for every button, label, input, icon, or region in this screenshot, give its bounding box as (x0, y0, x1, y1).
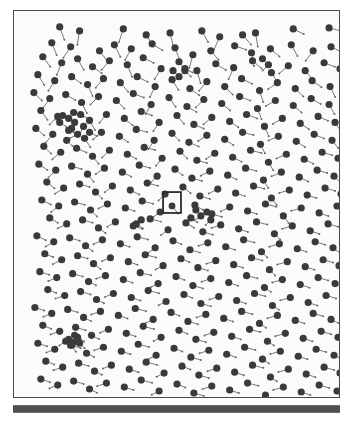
velocity-vector-tip (257, 385, 259, 387)
velocity-vector-tip (52, 263, 54, 265)
simulation-box (13, 10, 340, 398)
velocity-vector-tip (228, 78, 230, 80)
velocity-vector-tip (180, 243, 182, 245)
particle (221, 136, 228, 143)
velocity-vector-tip (76, 44, 78, 46)
particle (189, 51, 196, 58)
velocity-vector-tip (269, 353, 271, 355)
particle (96, 47, 103, 54)
velocity-vector-tip (278, 56, 280, 58)
velocity-vector-tip (272, 169, 274, 171)
particle (187, 354, 194, 361)
particle (125, 258, 132, 265)
particle (249, 57, 256, 64)
velocity-vector-tip (205, 224, 207, 226)
velocity-vector-tip (334, 66, 336, 68)
velocity-vector-tip (244, 195, 246, 197)
velocity-vector-tip (218, 59, 220, 61)
velocity-vector-tip (86, 112, 88, 114)
velocity-vector-tip (46, 169, 48, 171)
velocity-vector-tip (188, 67, 190, 69)
particle (320, 256, 327, 263)
particle (57, 149, 64, 156)
particle (325, 101, 332, 108)
velocity-vector-tip (271, 175, 273, 177)
particle (278, 169, 285, 176)
particle (89, 153, 96, 160)
particle (77, 288, 84, 295)
velocity-vector-tip (89, 104, 91, 106)
velocity-vector-tip (177, 89, 179, 91)
particle (190, 389, 197, 396)
velocity-vector-tip (71, 145, 73, 147)
particle (101, 165, 108, 172)
particle (113, 97, 120, 104)
velocity-vector-tip (152, 130, 154, 132)
velocity-vector-tip (134, 210, 136, 212)
velocity-vector-tip (51, 158, 53, 160)
particle (141, 144, 148, 151)
particle (112, 218, 119, 225)
particle (71, 198, 78, 205)
velocity-vector-tip (279, 299, 281, 301)
particle (316, 209, 323, 216)
velocity-vector-tip (278, 72, 280, 74)
particle (79, 216, 86, 223)
particle (63, 220, 70, 227)
particle (158, 65, 165, 72)
particle (173, 380, 180, 387)
velocity-vector-tip (264, 152, 266, 154)
particle (149, 40, 156, 47)
particle (300, 335, 307, 342)
particle (76, 340, 83, 347)
velocity-vector-tip (127, 141, 129, 143)
particle (288, 41, 295, 48)
velocity-vector-tip (331, 154, 333, 156)
velocity-vector-tip (130, 353, 132, 355)
particle (150, 316, 157, 323)
particle (185, 139, 192, 146)
particle (250, 183, 257, 190)
particle (249, 362, 256, 369)
velocity-vector-tip (327, 120, 329, 122)
particle (123, 330, 130, 337)
velocity-vector-tip (261, 67, 263, 69)
velocity-vector-tip (209, 299, 211, 301)
velocity-vector-tip (243, 374, 245, 376)
velocity-vector-tip (99, 122, 101, 124)
velocity-vector-tip (196, 221, 198, 223)
particle (111, 41, 118, 48)
velocity-vector-tip (56, 54, 58, 56)
velocity-vector-tip (235, 356, 237, 358)
velocity-vector-tip (320, 103, 322, 105)
particle (51, 77, 58, 84)
velocity-vector-tip (318, 233, 320, 235)
particle (214, 185, 221, 192)
velocity-vector-tip (186, 333, 188, 335)
particle (186, 246, 193, 253)
particle (98, 129, 105, 136)
velocity-vector-tip (84, 204, 86, 206)
particle (100, 75, 107, 82)
particle (121, 383, 128, 390)
particle (179, 184, 186, 191)
particle (93, 296, 100, 303)
velocity-vector-tip (79, 240, 81, 242)
particle (172, 273, 179, 280)
particle (284, 258, 291, 265)
velocity-vector-tip (55, 298, 57, 300)
velocity-vector-tip (260, 118, 262, 120)
particle (231, 369, 238, 376)
velocity-vector-tip (229, 109, 231, 111)
particle (261, 123, 268, 130)
velocity-vector-tip (47, 280, 49, 282)
velocity-vector-tip (149, 96, 151, 98)
particle (310, 310, 317, 317)
particle (134, 73, 141, 80)
velocity-vector-tip (182, 174, 184, 176)
velocity-vector-tip (57, 227, 59, 229)
particle (63, 137, 70, 144)
velocity-vector-tip (150, 274, 152, 276)
particle (305, 299, 312, 306)
particle (222, 243, 229, 250)
